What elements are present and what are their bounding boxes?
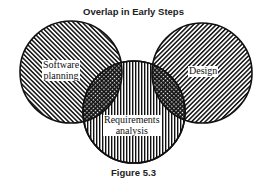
- label-line: analysis: [104, 126, 160, 137]
- label-design: Design: [188, 66, 218, 77]
- label-line: Requirements: [104, 115, 160, 126]
- label-line: Design: [189, 66, 217, 77]
- label-line: Software: [43, 60, 79, 71]
- label-line: planning: [43, 71, 79, 82]
- label-requirements-analysis: Requirements analysis: [103, 115, 161, 136]
- figure-caption: Figure 5.3: [0, 167, 267, 178]
- label-software-planning: Software planning: [42, 60, 80, 81]
- venn-diagram: [0, 0, 267, 189]
